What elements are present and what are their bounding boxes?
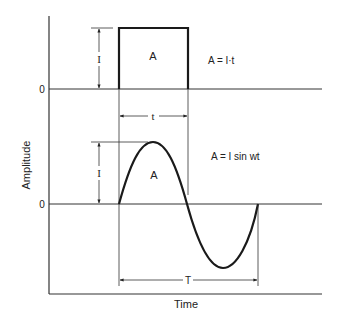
bottom-amplitude-label: I bbox=[97, 167, 101, 179]
bottom-zero-label: 0 bbox=[39, 199, 45, 210]
top-amplitude-label: I bbox=[97, 53, 101, 65]
amplitude-time-diagram: Amplitude Time 0 I A A = I·t t 0 I A A =… bbox=[0, 0, 337, 325]
top-area-label: A bbox=[149, 50, 157, 62]
t-width-label: t bbox=[151, 110, 154, 122]
top-equation: A = I·t bbox=[208, 55, 235, 66]
y-axis-label: Amplitude bbox=[20, 141, 32, 190]
period-label: T bbox=[185, 275, 191, 286]
top-zero-label: 0 bbox=[39, 84, 45, 95]
bottom-area-label: A bbox=[150, 169, 158, 181]
x-axis-label: Time bbox=[174, 298, 198, 310]
bottom-equation: A = I sin wt bbox=[211, 151, 260, 162]
